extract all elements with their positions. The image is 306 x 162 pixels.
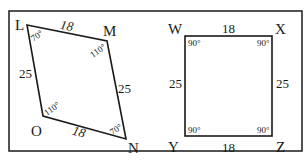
angle-label-z: 90°: [257, 125, 270, 135]
side-label-on: 18: [71, 123, 88, 141]
side-label-wy: 25: [169, 76, 182, 91]
side-label-wx: 18: [222, 21, 235, 36]
side-label-mn: 25: [118, 81, 131, 96]
side-label-yz: 18: [222, 140, 235, 155]
parallelogram-lmno: L M N O 18 25 18 25 70° 110° 70° 110°: [15, 17, 139, 156]
side-label-lo: 25: [19, 66, 32, 81]
vertex-label-n: N: [128, 140, 139, 156]
angle-label-l: 70°: [29, 28, 45, 44]
vertex-label-w: W: [168, 21, 183, 37]
angle-label-w: 90°: [188, 38, 201, 48]
vertex-label-o: O: [31, 123, 42, 139]
angle-label-y: 90°: [188, 125, 201, 135]
geometry-figure: L M N O 18 25 18 25 70° 110° 70° 110° W …: [0, 0, 306, 162]
vertex-label-z: Z: [276, 139, 285, 155]
vertex-label-y: Y: [168, 139, 179, 155]
angle-label-o: 110°: [42, 99, 62, 117]
vertex-label-l: L: [15, 17, 24, 33]
rectangle-wxzy: W X Z Y 18 25 18 25 90° 90° 90° 90°: [168, 21, 289, 155]
side-label-xz: 25: [276, 76, 289, 91]
vertex-label-m: M: [103, 23, 116, 39]
angle-label-m: 110°: [88, 41, 108, 59]
side-label-lm: 18: [59, 17, 75, 34]
vertex-label-x: X: [275, 21, 286, 37]
angle-label-x: 90°: [257, 38, 270, 48]
parallelogram-shape: [27, 25, 126, 139]
rectangle-shape: [185, 36, 272, 136]
